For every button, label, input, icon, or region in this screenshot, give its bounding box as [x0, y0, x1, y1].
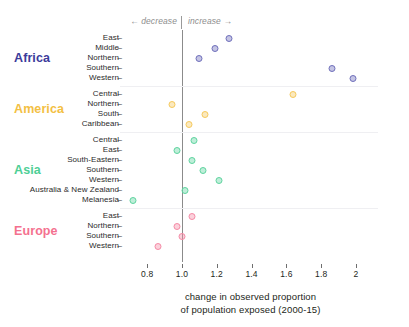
x-axis-tick — [217, 264, 218, 268]
group-separator — [120, 208, 378, 209]
row-tick-dash: – — [118, 221, 122, 230]
data-row: Western– — [0, 242, 409, 252]
row-label: East — [0, 145, 119, 154]
x-axis-tick-label: 1.0 — [176, 269, 188, 279]
x-axis-tick — [182, 264, 183, 268]
x-axis-tick — [356, 264, 357, 268]
direction-divider — [181, 16, 182, 29]
data-point[interactable] — [173, 147, 180, 154]
direction-annotation-row: ← decrease increase → — [0, 16, 409, 30]
row-tick-dash: – — [118, 175, 122, 184]
plot-area: East–Middle–Northern–Southern–Western–Ce… — [0, 30, 409, 268]
data-point[interactable] — [179, 233, 186, 240]
row-tick-dash: – — [118, 89, 122, 98]
row-tick-dash: – — [118, 43, 122, 52]
data-point[interactable] — [189, 213, 196, 220]
x-axis-tick-label: 2 — [354, 269, 359, 279]
data-point[interactable] — [349, 75, 356, 82]
x-axis-tick — [147, 264, 148, 268]
row-tick-dash: – — [118, 165, 122, 174]
row-label: East — [0, 211, 119, 220]
data-point[interactable] — [196, 55, 203, 62]
data-point[interactable] — [215, 177, 222, 184]
group-name-africa: Africa — [14, 51, 50, 65]
row-tick-dash: – — [118, 119, 122, 128]
x-axis-tick-label: 1.8 — [315, 269, 327, 279]
row-label: Caribbean — [0, 119, 119, 128]
data-point[interactable] — [130, 197, 137, 204]
data-point[interactable] — [173, 223, 180, 230]
group-separator — [120, 132, 378, 133]
data-row: Western– — [0, 74, 409, 84]
decrease-annotation: ← decrease — [130, 16, 177, 26]
data-row: Caribbean– — [0, 120, 409, 130]
row-tick-dash: – — [118, 99, 122, 108]
row-label: Australia & New Zealand — [0, 185, 119, 194]
row-tick-dash: – — [118, 241, 122, 250]
x-axis-title-line-2: of population exposed (2000-15) — [46, 303, 409, 316]
row-label: Central — [0, 89, 119, 98]
x-axis: 0.81.01.21.41.61.82 — [0, 264, 409, 290]
group-name-asia: Asia — [14, 163, 41, 177]
row-tick-dash: – — [118, 155, 122, 164]
data-point[interactable] — [328, 65, 335, 72]
group-name-europe: Europe — [14, 224, 58, 238]
data-point[interactable] — [191, 137, 198, 144]
data-point[interactable] — [199, 167, 206, 174]
row-tick-dash: – — [118, 145, 122, 154]
data-point[interactable] — [225, 35, 232, 42]
x-axis-tick — [321, 264, 322, 268]
data-point[interactable] — [154, 243, 161, 250]
data-point[interactable] — [201, 111, 208, 118]
row-label: Western — [0, 241, 119, 250]
row-tick-dash: – — [118, 53, 122, 62]
group-separator — [120, 86, 378, 87]
data-point[interactable] — [185, 121, 192, 128]
data-point[interactable] — [168, 101, 175, 108]
row-tick-dash: – — [118, 195, 122, 204]
x-axis-tick — [252, 264, 253, 268]
x-axis-tick — [286, 264, 287, 268]
x-axis-tick-label: 1.6 — [280, 269, 292, 279]
group-name-america: America — [14, 102, 64, 116]
data-row: Melanesia– — [0, 196, 409, 206]
x-axis-tick-label: 1.2 — [211, 269, 223, 279]
data-point[interactable] — [182, 187, 189, 194]
row-tick-dash: – — [118, 33, 122, 42]
row-tick-dash: – — [118, 63, 122, 72]
row-label: Central — [0, 135, 119, 144]
row-label: Melanesia — [0, 195, 119, 204]
x-axis-title: change in observed proportion of populat… — [0, 290, 409, 316]
x-axis-tick-label: 0.8 — [141, 269, 153, 279]
x-axis-title-line-1: change in observed proportion — [46, 290, 409, 303]
dot-plot-figure: ← decrease increase → East–Middle–Northe… — [0, 0, 409, 327]
row-tick-dash: – — [118, 73, 122, 82]
row-label: Western — [0, 73, 119, 82]
data-point[interactable] — [189, 157, 196, 164]
row-tick-dash: – — [118, 231, 122, 240]
x-axis-tick-label: 1.4 — [245, 269, 257, 279]
increase-annotation: increase → — [188, 16, 232, 26]
data-point[interactable] — [212, 45, 219, 52]
row-label: East — [0, 33, 119, 42]
row-tick-dash: – — [118, 211, 122, 220]
row-tick-dash: – — [118, 109, 122, 118]
row-tick-dash: – — [118, 135, 122, 144]
data-point[interactable] — [290, 91, 297, 98]
row-tick-dash: – — [118, 185, 122, 194]
